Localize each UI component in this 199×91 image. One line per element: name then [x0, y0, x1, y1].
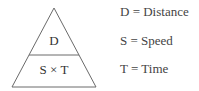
legend-time: T = Time: [120, 61, 168, 77]
triangle-bottom-label: S × T: [24, 62, 84, 78]
triangle-top-label: D: [24, 33, 84, 49]
legend-speed: S = Speed: [120, 33, 173, 49]
legend-distance: D = Distance: [120, 4, 189, 20]
